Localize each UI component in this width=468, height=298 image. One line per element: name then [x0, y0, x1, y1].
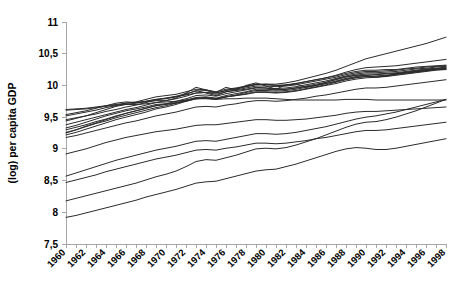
x-tick-label: 1972 — [165, 247, 188, 270]
x-tick-label: 1962 — [65, 247, 88, 270]
y-tick-label: 9 — [52, 143, 58, 154]
x-tick-label: 1986 — [305, 247, 328, 270]
series-lines — [66, 37, 446, 217]
series-line — [66, 139, 446, 218]
y-tick-label: 7,5 — [44, 239, 58, 250]
x-tick-label: 1976 — [205, 247, 228, 270]
x-tick-label: 1964 — [85, 246, 108, 269]
y-axis-title: (log) per capita GDP — [6, 83, 18, 184]
x-tick-label: 1988 — [325, 247, 348, 270]
x-tick-label: 1980 — [245, 247, 268, 270]
x-tick-label: 1960 — [45, 247, 68, 270]
line-chart: 7,588,599,51010,511 19601962196419661968… — [0, 0, 468, 298]
y-tick-label: 10 — [47, 80, 59, 91]
y-tick-label: 11 — [47, 17, 58, 28]
y-axis-tick-labels: 7,588,599,51010,511 — [39, 17, 59, 250]
x-axis-tick-labels: 1960196219641966196819701972197419761978… — [45, 246, 448, 269]
x-tick-label: 1990 — [345, 247, 368, 270]
y-axis-ticks — [62, 22, 66, 244]
chart-container: 7,588,599,51010,511 19601962196419661968… — [0, 0, 468, 298]
x-tick-label: 1996 — [405, 247, 428, 270]
y-tick-label: 10,5 — [39, 48, 59, 59]
x-tick-label: 1970 — [145, 247, 168, 270]
y-tick-label: 8 — [52, 207, 58, 218]
x-tick-label: 1982 — [265, 247, 288, 270]
x-tick-label: 1994 — [385, 246, 408, 269]
series-line — [66, 122, 446, 182]
x-tick-label: 1978 — [225, 247, 248, 270]
y-tick-label: 8,5 — [44, 175, 58, 186]
x-axis-ticks — [66, 244, 446, 248]
x-tick-label: 1974 — [185, 246, 208, 269]
x-tick-label: 1968 — [125, 247, 148, 270]
y-tick-label: 9,5 — [44, 112, 58, 123]
x-tick-label: 1998 — [425, 247, 448, 270]
series-line — [66, 68, 446, 135]
x-tick-label: 1984 — [285, 246, 308, 269]
x-tick-label: 1966 — [105, 247, 128, 270]
x-tick-label: 1992 — [365, 247, 388, 270]
